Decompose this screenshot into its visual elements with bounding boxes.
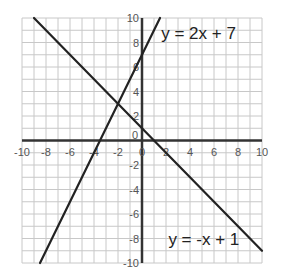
x-tick-label: -2	[113, 146, 123, 158]
x-tick-label: -8	[41, 146, 51, 158]
y-tick-label: -8	[129, 233, 139, 245]
x-tick-label: 8	[235, 146, 241, 158]
y-tick-label: 8	[133, 37, 139, 49]
y-tick-label: 4	[133, 86, 139, 98]
y-tick-label: 10	[127, 12, 139, 24]
equation-label: y = -x + 1	[168, 230, 239, 249]
y-tick-label: -10	[123, 257, 139, 269]
y-tick-label: -2	[129, 159, 139, 171]
x-axis-tick-labels: -10-8-6-4-20246810	[14, 146, 268, 158]
equation-label: y = 2x + 7	[161, 24, 236, 43]
y-tick-label: 0	[132, 129, 138, 141]
coordinate-plane-chart: -10-8-6-4-20246810 -10-8-6-4-20246810 y …	[0, 0, 281, 280]
x-tick-label: 4	[187, 146, 193, 158]
y-tick-label: -4	[129, 184, 139, 196]
x-tick-label: 0	[139, 146, 145, 158]
x-tick-label: 6	[211, 146, 217, 158]
x-tick-label: -10	[14, 146, 30, 158]
y-tick-label: -6	[129, 208, 139, 220]
x-tick-label: -6	[65, 146, 75, 158]
line-series	[34, 18, 262, 251]
x-tick-label: 10	[256, 146, 268, 158]
